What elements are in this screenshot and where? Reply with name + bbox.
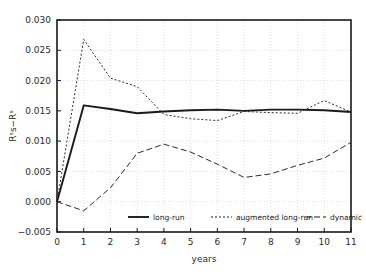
y-tick-label: 0.010 — [25, 136, 51, 146]
y-tick-label: 0.020 — [25, 76, 51, 86]
x-tick-label: 10 — [319, 237, 331, 247]
chart-figure: −0.0050.0000.0050.0100.0150.0200.0250.03… — [0, 0, 366, 276]
series-line-augmented-long-run — [57, 39, 351, 201]
y-axis-label: Rˢs−Rˢ — [8, 110, 18, 141]
y-tick-label: −0.005 — [18, 227, 51, 237]
data-series — [57, 39, 351, 210]
x-tick-label: 11 — [345, 237, 356, 247]
grid-lines — [57, 20, 351, 232]
x-tick-label: 1 — [81, 237, 87, 247]
x-tick-label: 2 — [108, 237, 114, 247]
series-line-long-run — [57, 105, 351, 201]
y-tick-label: 0.030 — [25, 15, 51, 25]
legend-label-dynamic: dynamic — [330, 213, 362, 222]
legend-label-long-run: long-run — [153, 213, 185, 222]
axes — [57, 20, 351, 232]
series-line-dynamic — [57, 142, 351, 210]
x-tick-label: 3 — [134, 237, 140, 247]
x-tick-label: 7 — [241, 237, 247, 247]
chart-legend: long-runaugmented long-rundynamic — [128, 213, 362, 222]
y-tick-label: 0.025 — [25, 45, 51, 55]
x-tick-label: 8 — [268, 237, 274, 247]
legend-label-augmented-long-run: augmented long-run — [236, 213, 313, 222]
x-tick-label: 4 — [161, 237, 167, 247]
x-tick-label: 5 — [188, 237, 194, 247]
x-tick-label: 6 — [214, 237, 220, 247]
y-tick-label: 0.000 — [25, 197, 51, 207]
line-chart: −0.0050.0000.0050.0100.0150.0200.0250.03… — [0, 0, 366, 276]
x-tick-label: 0 — [54, 237, 60, 247]
x-tick-label: 9 — [295, 237, 301, 247]
x-axis-label: years — [192, 254, 217, 264]
y-tick-label: 0.015 — [25, 106, 51, 116]
y-tick-label: 0.005 — [25, 167, 51, 177]
